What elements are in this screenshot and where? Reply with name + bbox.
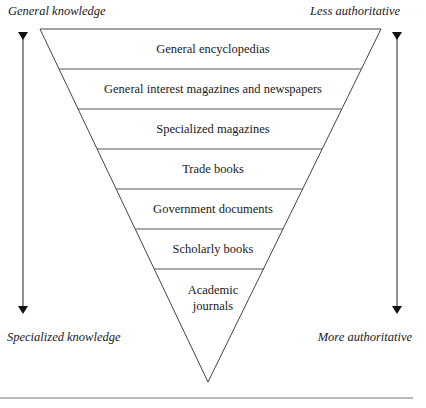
less-authoritative-label: Less authoritative (310, 4, 400, 19)
general-knowledge-label: General knowledge (8, 4, 106, 19)
tier-trade-books: Trade books (0, 161, 426, 177)
tier-scholarly-books: Scholarly books (0, 241, 426, 257)
specialized-knowledge-label: Specialized knowledge (7, 330, 121, 345)
more-authoritative-label: More authoritative (318, 330, 412, 345)
tier-academic-journals-line2: journals (0, 298, 426, 314)
tier-specialized-magazines: Specialized magazines (0, 121, 426, 137)
tier-general-encyclopedias: General encyclopedias (0, 41, 426, 57)
tier-academic-journals-line1: Academic (0, 282, 426, 298)
tier-government-documents: Government documents (0, 201, 426, 217)
tier-general-interest-magazines: General interest magazines and newspaper… (0, 81, 426, 97)
